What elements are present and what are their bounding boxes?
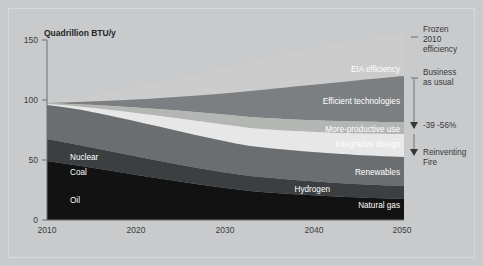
anno-reduction: -39 -56% xyxy=(423,121,456,130)
stacked-area-chart: 150 100 50 0 2010 2020 2030 2040 2050 Qu… xyxy=(0,0,483,266)
y-tick-label-0: 0 xyxy=(33,215,38,225)
label-eia-efficiency: EIA efficiency xyxy=(351,65,401,74)
anno-bau-line1: Business xyxy=(423,68,456,77)
anno-reinventing-line1: Reinventing xyxy=(423,148,467,157)
anno-frozen-line3: efficiency xyxy=(423,45,458,54)
label-coal: Coal xyxy=(70,168,87,177)
y-tick-label-50: 50 xyxy=(29,155,39,165)
label-more-productive-use: More-productive use xyxy=(325,125,400,134)
chart-title: Quadrillion BTU/y xyxy=(44,28,116,38)
label-hydrogen: Hydrogen xyxy=(294,185,330,194)
y-tick-label-100: 100 xyxy=(24,95,38,105)
label-efficient-technologies: Efficient technologies xyxy=(323,97,400,106)
x-tick-label-2050: 2050 xyxy=(393,225,412,235)
label-nuclear: Nuclear xyxy=(70,153,98,162)
label-integrative-design: Integrative design xyxy=(335,140,400,149)
chart-stage: 150 100 50 0 2010 2020 2030 2040 2050 Qu… xyxy=(0,0,483,266)
label-natural-gas: Natural gas xyxy=(358,201,400,210)
y-tick-label-150: 150 xyxy=(24,35,38,45)
anno-bau-line2: as usual xyxy=(423,78,454,87)
x-tick-label-2010: 2010 xyxy=(38,225,57,235)
anno-reinventing-line2: Fire xyxy=(423,158,438,167)
anno-frozen-line2: 2010 xyxy=(423,35,442,44)
x-tick-label-2020: 2020 xyxy=(127,225,146,235)
x-tick-label-2040: 2040 xyxy=(305,225,324,235)
label-oil: Oil xyxy=(70,196,80,205)
anno-arrow-reinventing xyxy=(410,149,418,156)
anno-frozen-line1: Frozen xyxy=(423,25,449,34)
label-renewables: Renewables xyxy=(355,168,400,177)
anno-arrow-reduction xyxy=(410,122,418,129)
x-tick-label-2030: 2030 xyxy=(216,225,235,235)
